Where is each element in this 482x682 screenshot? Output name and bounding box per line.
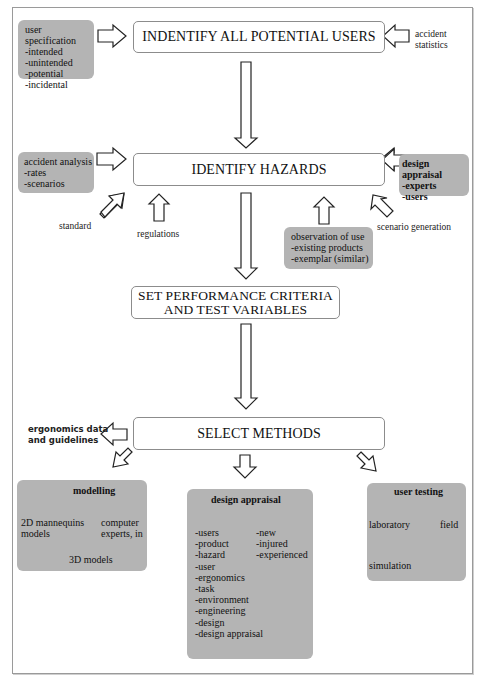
design-appraisal-left-item: -users [195, 527, 263, 538]
arrow-right-icon [97, 148, 126, 170]
observation-of-use-item: -existing products [291, 242, 373, 253]
stage-identify-hazards: IDENTIFY HAZARDS [133, 153, 385, 186]
arrow-up-icon [314, 197, 334, 224]
modelling-box: modelling 2D mannequins models computer … [17, 480, 147, 571]
stage-select-methods: SELECT METHODS [133, 417, 385, 450]
arrow-diagonal-icon [101, 193, 124, 217]
arrow-down-icon [235, 193, 257, 279]
modelling-right: computer experts, in [101, 517, 143, 539]
stage-identify-users-label: INDENTIFY ALL POTENTIAL USERS [142, 29, 376, 45]
accident-analysis-box: accident analysis -rates -scenarios [18, 152, 94, 193]
design-appraisal-input-title: design appraisal [402, 158, 469, 180]
stage-select-methods-label: SELECT METHODS [197, 426, 321, 442]
design-appraisal-left-item: -task [195, 583, 263, 594]
arrow-down-icon [235, 62, 257, 148]
design-appraisal-left-item: -design [195, 617, 263, 628]
regulations-label: regulations [137, 229, 179, 240]
stage-performance-criteria: SET PERFORMANCE CRITERIA AND TEST VARIAB… [131, 286, 340, 319]
design-appraisal-left-list: -users -product -hazard -user -ergonomic… [195, 527, 263, 639]
user-spec-item: -unintended [25, 57, 94, 68]
stage-identify-users: INDENTIFY ALL POTENTIAL USERS [133, 21, 385, 53]
design-appraisal-left-item: -user [195, 561, 263, 572]
modelling-bottom: 3D models [69, 554, 113, 565]
stage-identify-hazards-label: IDENTIFY HAZARDS [191, 162, 326, 178]
user-spec-item: -potential [25, 68, 94, 79]
arrow-down-icon [234, 455, 256, 478]
stage-performance-line2: AND TEST VARIABLES [164, 303, 307, 317]
modelling-title: modelling [73, 485, 115, 496]
design-appraisal-title: design appraisal [211, 494, 281, 505]
design-appraisal-left-item: -environment [195, 594, 263, 605]
user-testing-title: user testing [394, 486, 443, 497]
user-testing-box: user testing laboratory field simulation [367, 483, 466, 581]
user-testing-left: laboratory [369, 519, 410, 530]
design-appraisal-left-item: -product [195, 538, 263, 549]
design-appraisal-right-item: -injured [256, 538, 308, 549]
standard-label: standard [59, 221, 91, 232]
arrow-diagonal-icon [357, 452, 376, 471]
design-appraisal-left-item: -engineering [195, 605, 263, 616]
modelling-right-line2: experts, in [101, 528, 143, 539]
design-appraisal-input-item: -experts [402, 180, 469, 191]
user-spec-item: -intended [25, 46, 94, 57]
design-appraisal-left-item: -ergonomics [195, 572, 263, 583]
user-specification-title: user specification [25, 24, 94, 46]
accident-statistics-line2: statistics [415, 40, 448, 51]
accident-analysis-title: accident analysis [24, 156, 94, 167]
design-appraisal-right-item: -new [256, 527, 308, 538]
accident-statistics-line1: accident [415, 29, 448, 40]
user-testing-right: field [440, 519, 458, 530]
modelling-left-line2: models [21, 528, 84, 539]
scenario-generation-label: scenario generation [377, 222, 451, 233]
design-appraisal-right-list: -new -injured -experienced [256, 527, 308, 561]
accident-analysis-item: -rates [24, 167, 94, 178]
observation-of-use-title: observation of use [291, 231, 373, 242]
ergonomics-data-line2: and guidelines [28, 435, 108, 446]
observation-of-use-box: observation of use -existing products -e… [284, 227, 373, 269]
observation-of-use-item: -exemplar (similar) [291, 253, 373, 264]
design-appraisal-left-item: -design appraisal [195, 628, 263, 639]
design-appraisal-input-box: design appraisal -experts -users [399, 154, 469, 196]
user-testing-bottom: simulation [369, 560, 411, 571]
user-specification-box: user specification -intended -unintended… [18, 20, 94, 79]
arrow-diagonal-icon [113, 448, 132, 467]
design-appraisal-right-item: -experienced [256, 549, 308, 560]
accident-analysis-item: -scenarios [24, 178, 94, 189]
arrow-diagonal-icon [371, 195, 393, 217]
accident-statistics-label: accident statistics [415, 29, 448, 51]
modelling-left-line1: 2D mannequins [21, 517, 84, 528]
ergonomics-data-label: ergonomics data and guidelines [28, 424, 108, 446]
arrow-up-icon [149, 194, 169, 221]
user-spec-item: -incidental [25, 79, 94, 90]
ergonomics-data-line1: ergonomics data [28, 424, 108, 435]
design-appraisal-box: design appraisal -users -product -hazard… [187, 489, 313, 659]
modelling-left: 2D mannequins models [21, 517, 84, 539]
modelling-right-line1: computer [101, 517, 143, 528]
arrow-right-icon [98, 25, 126, 47]
stage-performance-line1: SET PERFORMANCE CRITERIA [138, 289, 333, 303]
design-appraisal-input-item: -users [402, 191, 469, 202]
arrow-down-icon [235, 324, 257, 409]
design-appraisal-left-item: -hazard [195, 549, 263, 560]
arrow-left-icon [383, 25, 409, 47]
